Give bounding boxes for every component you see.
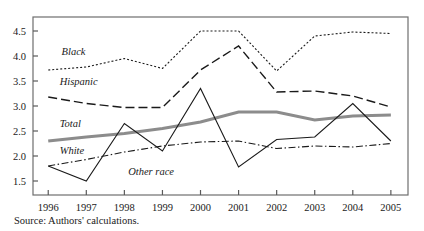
x-tick-label: 1998	[114, 202, 135, 213]
x-tick-label: 2005	[380, 202, 401, 213]
y-tick-label: 2.0	[13, 151, 26, 162]
x-tick-label: 1997	[76, 202, 97, 213]
series-label-total: Total	[60, 118, 81, 129]
line-chart: 1.52.02.53.03.54.04.51996199719981999200…	[0, 0, 424, 231]
series-label-black: Black	[62, 46, 86, 57]
series-label-other-race: Other race	[128, 166, 174, 177]
x-tick-label: 2000	[190, 202, 211, 213]
y-tick-label: 4.5	[13, 26, 26, 37]
x-tick-label: 2004	[342, 202, 364, 213]
x-tick-label: 1999	[152, 202, 173, 213]
figure-container: 1.52.02.53.03.54.04.51996199719981999200…	[0, 0, 424, 231]
y-tick-label: 3.0	[13, 101, 26, 112]
y-tick-label: 1.5	[13, 176, 26, 187]
series-line-hispanic	[48, 46, 391, 108]
series-label-white: White	[60, 145, 85, 156]
x-tick-label: 2001	[228, 202, 249, 213]
x-tick-label: 2003	[304, 202, 325, 213]
source-note: Source: Authors' calculations.	[14, 215, 139, 226]
series-label-hispanic: Hispanic	[59, 76, 98, 87]
x-tick-label: 1996	[38, 202, 59, 213]
plot-frame	[33, 17, 408, 195]
y-tick-label: 3.5	[13, 76, 26, 87]
series-line-white	[48, 141, 391, 166]
y-tick-label: 2.5	[13, 126, 26, 137]
series-line-black	[48, 31, 391, 71]
x-tick-label: 2002	[266, 202, 287, 213]
y-tick-label: 4.0	[13, 51, 26, 62]
